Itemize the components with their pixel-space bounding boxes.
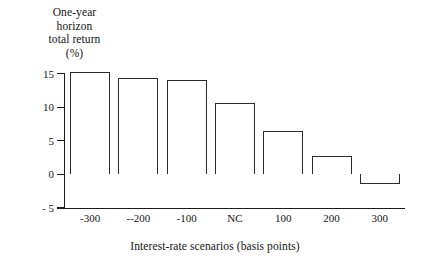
bar-200 <box>312 156 352 175</box>
y-tick-label: 15 <box>26 68 54 79</box>
y-tick-label: 0 <box>26 169 54 180</box>
bar-200 <box>118 78 158 174</box>
bar-NC <box>215 103 255 174</box>
x-tick-label: 300 <box>350 212 410 224</box>
y-tick-5 <box>57 140 64 141</box>
y-tick-label-wrap: - 5 <box>22 208 54 209</box>
y-tick-0 <box>57 174 64 175</box>
y-tick-label: 5 <box>26 135 54 146</box>
plot-area: 151050- 5 -300--200-100NC100200300 <box>0 0 430 265</box>
y-tick-label: 10 <box>26 102 54 113</box>
bar-100 <box>167 80 207 174</box>
y-tick-label: - 5 <box>26 203 54 214</box>
y-tick-label-wrap: 5 <box>22 141 54 142</box>
y-tick-neg5 <box>57 207 64 208</box>
bar-300 <box>70 72 110 174</box>
y-tick-10 <box>57 107 64 108</box>
x-axis-title: Interest-rate scenarios (basis points) <box>0 240 430 252</box>
y-tick-label-wrap: 10 <box>22 107 54 108</box>
y-axis-line <box>64 73 65 209</box>
bar-300 <box>360 174 400 184</box>
chart-figure: One-year horizon total return (%) 151050… <box>0 0 430 265</box>
bar-100 <box>263 131 303 175</box>
y-tick-15 <box>57 73 64 74</box>
y-tick-label-wrap: 0 <box>22 174 54 175</box>
x-axis-line <box>64 208 405 209</box>
y-tick-label-wrap: 15 <box>22 74 54 75</box>
